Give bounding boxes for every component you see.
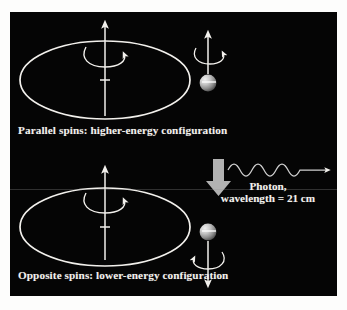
photon-wave-group [228,164,328,176]
photon-label-line1: Photon, [198,180,337,192]
electron-sphere-bottom [200,224,217,241]
figure-root: Parallel spins: higher-energy configurat… [0,0,347,310]
caption-parallel-spins: Parallel spins: higher-energy configurat… [18,124,227,136]
diagram-canvas [10,12,337,296]
top-diagram-group [20,24,224,119]
electron-spin-curve-top [194,48,223,64]
diagram-panel: Parallel spins: higher-energy configurat… [10,12,337,296]
photon-label-line2: wavelength = 21 cm [198,192,337,204]
electron-sphere-top [200,75,217,92]
photon-wave-path [228,164,328,176]
caption-opposite-spins: Opposite spins: lower-energy configurati… [18,269,228,281]
bottom-diagram-group [20,169,224,284]
